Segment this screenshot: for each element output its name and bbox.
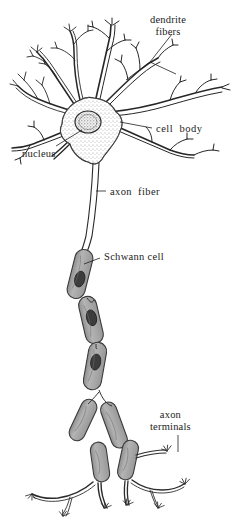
label-schwann-cell: Schwann cell — [104, 251, 164, 263]
label-axon-terminals-line2: terminals — [150, 421, 191, 432]
label-dendrite-fibers: dendritefibers — [150, 14, 186, 37]
label-cell-body: cell body — [156, 123, 202, 135]
neuron-illustration — [0, 0, 238, 527]
label-axon-terminals: axonterminals — [150, 409, 191, 432]
label-axon-terminals-line1: axon — [160, 409, 181, 420]
label-nucleus: nucleus — [22, 148, 55, 160]
neuron-diagram-figure: dendritefibers cell body nucleus axon fi… — [0, 0, 238, 527]
nucleus-shape — [75, 111, 101, 133]
label-dendrite-fibers-line1: dendrite — [150, 14, 186, 25]
label-dendrite-fibers-line2: fibers — [155, 26, 180, 37]
label-axon-fiber: axon fiber — [110, 186, 160, 198]
